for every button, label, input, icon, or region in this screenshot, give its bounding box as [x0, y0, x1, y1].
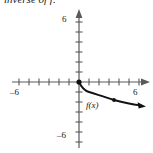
coordinate-plane	[0, 0, 153, 153]
y-axis-label-negative-six: –6	[57, 131, 66, 140]
y-axis-arrow-icon	[76, 9, 83, 18]
curve-arrow-icon	[138, 102, 146, 108]
y-axis-label-positive-six: 6	[62, 15, 67, 24]
curve-point-origin	[76, 79, 81, 84]
curve-label-fx: f(x)	[86, 101, 99, 110]
function-graph-figure: inverse of f.	[0, 0, 153, 153]
x-axis-arrow-icon	[141, 79, 150, 86]
curve-point-marked	[112, 98, 116, 102]
x-axis-label-negative-six: –6	[10, 88, 19, 97]
x-axis-label-positive-six: 6	[133, 88, 138, 97]
